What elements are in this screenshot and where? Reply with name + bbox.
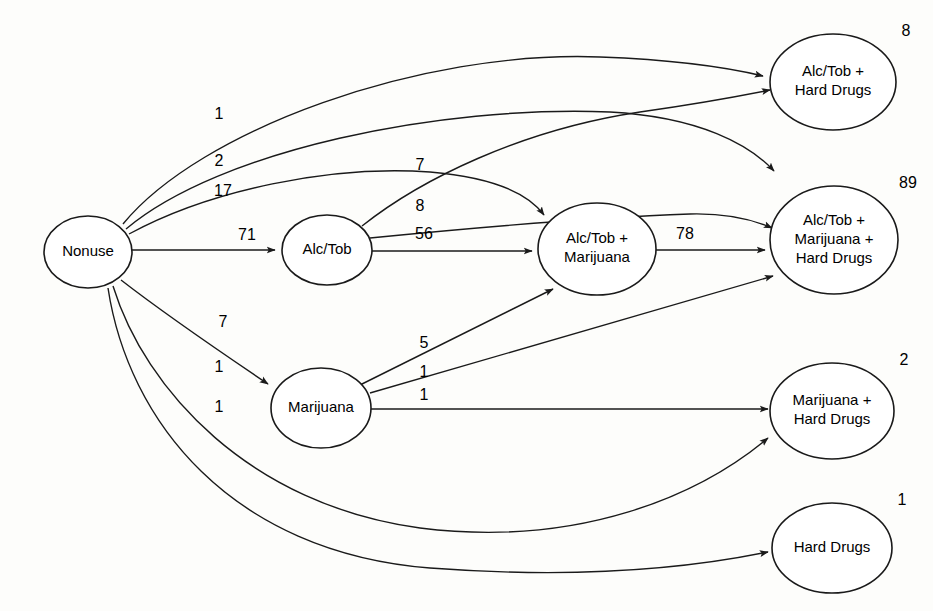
- node-count-alctob_mj_hd: 89: [899, 174, 917, 191]
- transition-diagram-canvas: NonuseAlc/TobAlc/Tob +MarijuanaMarijuana…: [0, 0, 933, 611]
- node-alctob_mj_hd[interactable]: Alc/Tob +Marijuana +Hard Drugs89: [770, 174, 917, 294]
- node-label-mj_hd: Marijuana +: [793, 391, 872, 408]
- edge-label-nonuse-to-alctob_hd: 1: [215, 105, 224, 122]
- node-label-alctob_mj: Alc/Tob +: [566, 229, 628, 246]
- node-label-hd: Hard Drugs: [794, 538, 871, 555]
- node-hd[interactable]: Hard Drugs1: [772, 491, 907, 593]
- node-count-mj_hd: 2: [900, 351, 909, 368]
- edge-label-marijuana-to-alctob_mj: 5: [420, 334, 429, 351]
- node-label-alctob: Alc/Tob: [302, 240, 351, 257]
- edge-label-marijuana-to-alctob_mj_hd: 1: [420, 363, 429, 380]
- edge-label-nonuse-to-alctob: 71: [238, 226, 256, 243]
- node-alctob_hd[interactable]: Alc/Tob +Hard Drugs8: [770, 22, 911, 130]
- node-mj_hd[interactable]: Marijuana +Hard Drugs2: [770, 351, 909, 459]
- node-label-alctob_mj_hd: Alc/Tob +: [803, 211, 865, 228]
- node-label-mj_hd: Hard Drugs: [794, 410, 871, 427]
- edges-layer: [108, 57, 774, 573]
- node-label-alctob_mj: Marijuana: [564, 248, 631, 265]
- node-label-alctob_hd: Hard Drugs: [795, 81, 872, 98]
- edge-label-nonuse-to-marijuana: 7: [219, 313, 228, 330]
- edge-nonuse-to-marijuana: [121, 280, 268, 384]
- edge-marijuana-to-alctob_mj: [360, 289, 553, 385]
- edge-label-nonuse-to-alctob_mj: 17: [214, 182, 232, 199]
- node-nonuse[interactable]: Nonuse: [44, 216, 132, 288]
- edge-label-nonuse-to-hd: 1: [215, 398, 224, 415]
- edge-nonuse-to-alctob_mj_hd: [126, 111, 774, 229]
- edge-marijuana-to-alctob_mj_hd: [370, 276, 773, 393]
- edge-label-alctob-to-alctob_mj_hd: 8: [416, 197, 425, 214]
- edge-label-alctob-to-alctob_mj: 56: [415, 225, 433, 242]
- node-alctob[interactable]: Alc/Tob: [282, 215, 372, 285]
- node-label-alctob_mj_hd: Hard Drugs: [796, 249, 873, 266]
- node-marijuana[interactable]: Marijuana: [271, 368, 371, 448]
- node-label-alctob_hd: Alc/Tob +: [802, 62, 864, 79]
- node-label-marijuana: Marijuana: [288, 398, 355, 415]
- node-alctob_mj[interactable]: Alc/Tob +Marijuana: [538, 203, 656, 295]
- edge-label-alctob-to-alctob_hd: 7: [416, 156, 425, 173]
- node-label-nonuse: Nonuse: [62, 242, 114, 259]
- node-count-alctob_hd: 8: [902, 22, 911, 39]
- node-label-alctob_mj_hd: Marijuana +: [795, 230, 874, 247]
- edge-label-nonuse-to-alctob_mj_hd: 2: [215, 152, 224, 169]
- graph-svg: NonuseAlc/TobAlc/Tob +MarijuanaMarijuana…: [0, 0, 933, 611]
- edge-label-nonuse-to-mj_hd: 1: [215, 358, 224, 375]
- edge-label-alctob_mj-to-alctob_mj_hd: 78: [676, 225, 694, 242]
- edge-label-marijuana-to-mj_hd: 1: [420, 386, 429, 403]
- node-count-hd: 1: [898, 491, 907, 508]
- nodes-layer: NonuseAlc/TobAlc/Tob +MarijuanaMarijuana…: [44, 22, 917, 593]
